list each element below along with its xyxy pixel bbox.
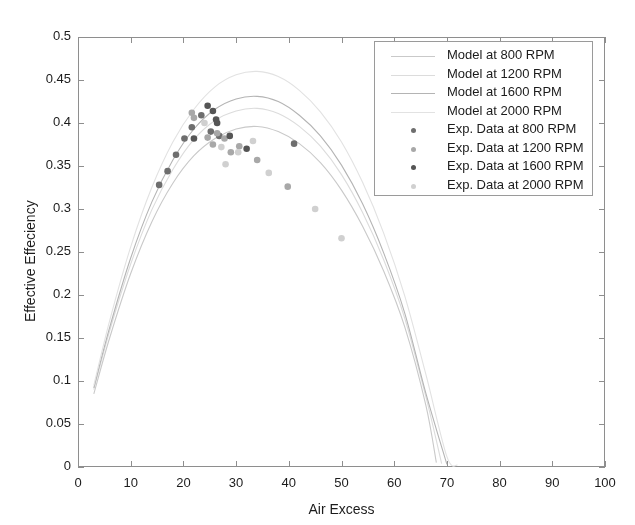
legend-item: Model at 1600 RPM	[375, 84, 594, 103]
legend-label: Exp. Data at 1600 RPM	[447, 158, 584, 173]
y-tick-label: 0.25	[46, 243, 71, 258]
legend-item: Exp. Data at 1600 RPM	[375, 158, 594, 177]
y-tick-label: 0.5	[53, 28, 71, 43]
legend-item: Model at 2000 RPM	[375, 103, 594, 122]
x-axis-title: Air Excess	[242, 501, 442, 517]
legend-line-swatch	[391, 93, 435, 94]
legend-item: Model at 1200 RPM	[375, 66, 594, 85]
legend-label: Exp. Data at 2000 RPM	[447, 177, 584, 192]
y-tick-label: 0	[64, 458, 71, 473]
x-tick-label: 10	[101, 475, 161, 490]
x-tick-label: 0	[48, 475, 108, 490]
chart-legend: Model at 800 RPMModel at 1200 RPMModel a…	[374, 41, 593, 196]
legend-item: Exp. Data at 1200 RPM	[375, 140, 594, 159]
legend-item: Exp. Data at 800 RPM	[375, 121, 594, 140]
legend-marker-swatch	[411, 165, 416, 170]
x-tick-label: 100	[575, 475, 635, 490]
legend-label: Model at 800 RPM	[447, 47, 555, 62]
legend-label: Exp. Data at 800 RPM	[447, 121, 576, 136]
y-tick-label: 0.1	[53, 372, 71, 387]
legend-marker-swatch	[411, 147, 416, 152]
y-tick-label: 0.15	[46, 329, 71, 344]
x-tick-label: 30	[206, 475, 266, 490]
x-tick-label: 40	[259, 475, 319, 490]
x-tick-label: 20	[153, 475, 213, 490]
chart-figure: 00.050.10.150.20.250.30.350.40.450.5 010…	[0, 0, 635, 525]
legend-label: Model at 1200 RPM	[447, 66, 562, 81]
y-tick-label: 0.05	[46, 415, 71, 430]
legend-line-swatch	[391, 75, 435, 76]
legend-line-swatch	[391, 56, 435, 57]
legend-marker-swatch	[411, 128, 416, 133]
y-tick-label: 0.4	[53, 114, 71, 129]
y-tick-label: 0.3	[53, 200, 71, 215]
legend-label: Exp. Data at 1200 RPM	[447, 140, 584, 155]
x-tick-label: 90	[522, 475, 582, 490]
y-tick-label: 0.2	[53, 286, 71, 301]
x-tick-label: 50	[312, 475, 372, 490]
legend-label: Model at 2000 RPM	[447, 103, 562, 118]
y-tick-label: 0.45	[46, 71, 71, 86]
legend-marker-swatch	[411, 184, 416, 189]
y-axis-title: Effective Effeciency	[22, 200, 38, 322]
legend-item: Exp. Data at 2000 RPM	[375, 177, 594, 196]
legend-item: Model at 800 RPM	[375, 47, 594, 66]
x-tick-label: 70	[417, 475, 477, 490]
x-tick-label: 60	[364, 475, 424, 490]
x-tick-label: 80	[470, 475, 530, 490]
legend-label: Model at 1600 RPM	[447, 84, 562, 99]
legend-line-swatch	[391, 112, 435, 113]
y-tick-label: 0.35	[46, 157, 71, 172]
